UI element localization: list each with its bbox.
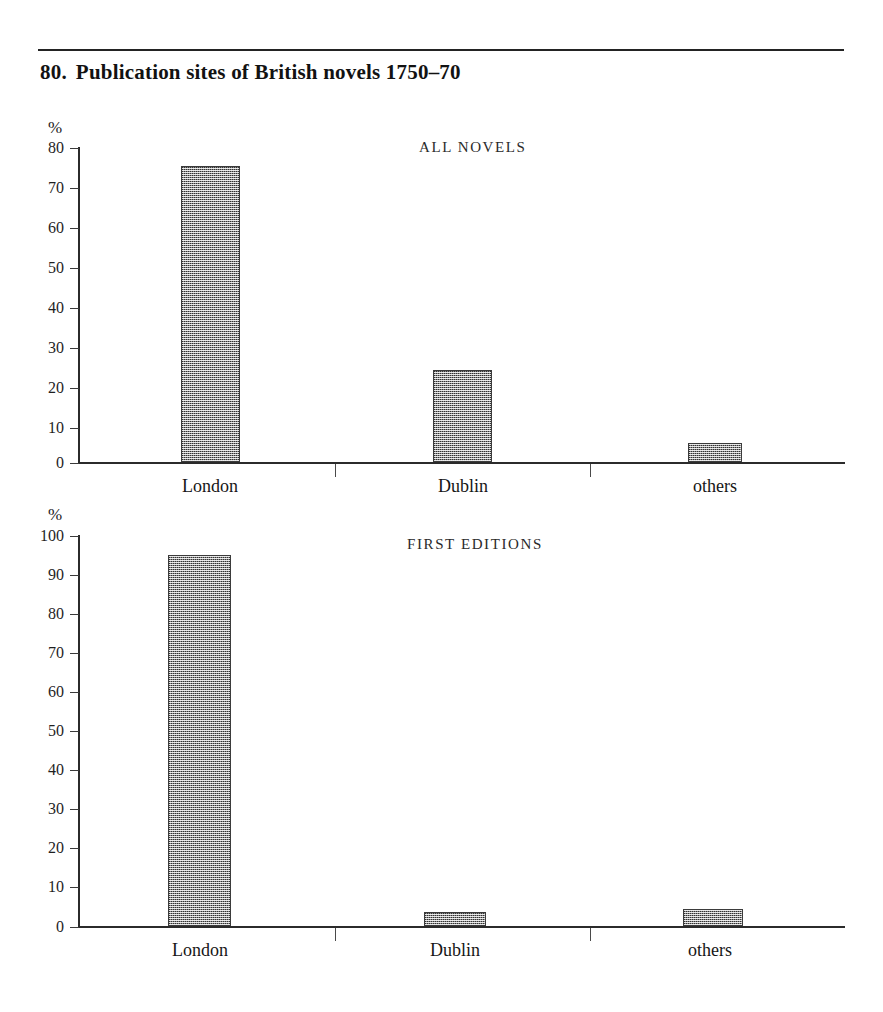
y-tick-70-b xyxy=(70,653,79,654)
bar-others-first-editions xyxy=(683,909,743,926)
y-tick-30-b xyxy=(70,809,79,810)
y-tick-20-b xyxy=(70,848,79,849)
y-tick-100 xyxy=(70,536,79,537)
y-tick-80-b xyxy=(70,614,79,615)
y-tick-label-0-b: 0 xyxy=(20,918,64,936)
y-tick-60-b xyxy=(70,692,79,693)
figure-page: 80.Publication sites of British novels 1… xyxy=(0,0,883,1012)
bar-dublin-first-editions xyxy=(424,912,486,926)
x-label-others-bottom: others xyxy=(640,940,780,961)
y-tick-label-70-b: 70 xyxy=(20,644,64,662)
y-tick-0-b xyxy=(70,927,79,928)
y-tick-label-100: 100 xyxy=(20,527,64,545)
x-label-london-bottom: London xyxy=(130,940,270,961)
y-tick-label-80-b: 80 xyxy=(20,605,64,623)
category-separator-2-bottom xyxy=(590,928,591,941)
y-tick-50-b xyxy=(70,731,79,732)
y-tick-label-50-b: 50 xyxy=(20,722,64,740)
y-tick-10-b xyxy=(70,887,79,888)
bar-london-first-editions xyxy=(168,555,231,926)
y-tick-label-90: 90 xyxy=(20,566,64,584)
chart-panel-first-editions: % FIRST EDITIONS 100 90 80 70 60 50 40 3… xyxy=(0,0,883,1012)
y-tick-label-20-b: 20 xyxy=(20,839,64,857)
y-tick-label-40-b: 40 xyxy=(20,761,64,779)
y-tick-40-b xyxy=(70,770,79,771)
y-tick-label-60-b: 60 xyxy=(20,683,64,701)
x-axis-line-bottom xyxy=(78,926,845,928)
y-tick-label-10-b: 10 xyxy=(20,878,64,896)
x-label-dublin-bottom: Dublin xyxy=(385,940,525,961)
category-separator-1-bottom xyxy=(335,928,336,941)
plot-area-first-editions: 100 90 80 70 60 50 40 30 20 10 0 xyxy=(0,0,883,1012)
y-tick-label-30-b: 30 xyxy=(20,800,64,818)
y-tick-90 xyxy=(70,575,79,576)
